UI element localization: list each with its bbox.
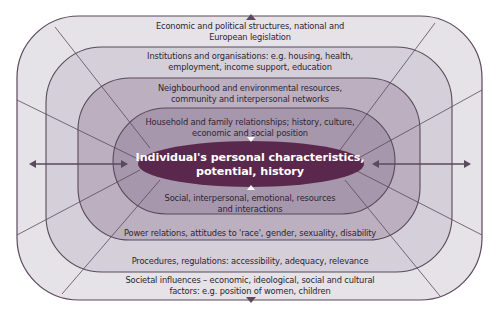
label-line: Household and family relationships; hist…: [100, 117, 400, 128]
label-line: factors: e.g. position of women, childre…: [80, 286, 420, 297]
label-line: Societal influences – economic, ideologi…: [80, 275, 420, 286]
label-societal-influences: Societal influences – economic, ideologi…: [80, 275, 420, 297]
label-line: employment, income support, education: [100, 62, 400, 73]
label-line: Power relations, attitudes to 'race', ge…: [80, 228, 420, 239]
label-line: economic and social position: [100, 128, 400, 139]
label-line: Institutions and organisations: e.g. hou…: [100, 51, 400, 62]
label-economic-political: Economic and political structures, natio…: [100, 21, 400, 43]
label-line: European legislation: [100, 32, 400, 43]
label-institutions: Institutions and organisations: e.g. hou…: [100, 51, 400, 73]
label-individual: Individual's personal characteristics, p…: [100, 151, 400, 179]
center-line: potential, history: [100, 165, 400, 179]
label-neighbourhood: Neighbourhood and environmental resource…: [100, 83, 400, 105]
center-line: Individual's personal characteristics,: [100, 151, 400, 165]
label-line: Neighbourhood and environmental resource…: [100, 83, 400, 94]
ecological-model-diagram: Economic and political structures, natio…: [0, 0, 499, 317]
label-line: and interactions: [100, 204, 400, 215]
label-line: Procedures, regulations: accessibility, …: [80, 256, 420, 267]
label-household: Household and family relationships; hist…: [100, 117, 400, 139]
label-social-interpersonal: Social, interpersonal, emotional, resour…: [100, 193, 400, 215]
label-line: Social, interpersonal, emotional, resour…: [100, 193, 400, 204]
label-line: Economic and political structures, natio…: [100, 21, 400, 32]
label-power-relations: Power relations, attitudes to 'race', ge…: [80, 228, 420, 239]
label-procedures: Procedures, regulations: accessibility, …: [80, 256, 420, 267]
label-line: community and interpersonal networks: [100, 94, 400, 105]
